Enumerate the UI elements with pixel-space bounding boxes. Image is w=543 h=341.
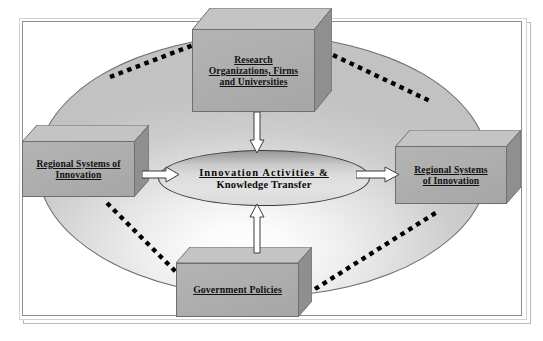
arrow-bottom-up <box>249 204 265 254</box>
box-government-policies[interactable]: Government Policies <box>176 247 312 317</box>
box-label-research-organizations: Research Organizations, Firms and Univer… <box>205 54 302 87</box>
core-ellipse[interactable]: Innovation Activities & Knowledge Transf… <box>158 150 370 206</box>
box-label-government-policies: Government Policies <box>189 284 286 295</box>
box-front-face: Regional Systems of Innovation <box>22 141 135 197</box>
diagram-canvas: Research Organizations, Firms and Univer… <box>0 0 543 341</box>
core-ellipse-line2: Knowledge Transfer <box>216 179 311 190</box>
arrow-core-to-right <box>356 166 400 184</box>
box-label-regional-systems-left: Regional Systems of Innovation <box>33 158 125 180</box>
arrow-top-down <box>249 112 265 154</box>
core-ellipse-line1: Innovation Activities & <box>199 167 329 178</box>
box-research-organizations[interactable]: Research Organizations, Firms and Univer… <box>192 8 332 112</box>
arrow-left-to-core <box>142 166 180 184</box>
box-regional-systems-right[interactable]: Regional Systems of Innovation <box>395 130 521 204</box>
box-front-face: Regional Systems of Innovation <box>395 146 507 204</box>
box-label-regional-systems-right: Regional Systems of Innovation <box>410 164 491 186</box>
box-front-face: Government Policies <box>176 263 299 317</box>
box-regional-systems-left[interactable]: Regional Systems of Innovation <box>22 125 149 197</box>
box-front-face: Research Organizations, Firms and Univer… <box>192 29 315 112</box>
